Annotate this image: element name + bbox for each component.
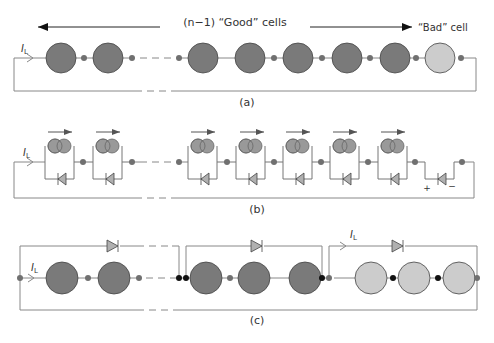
bad-cell bbox=[443, 262, 475, 294]
caption-b: (b) bbox=[249, 203, 265, 216]
bad-cell bbox=[425, 43, 455, 73]
good-cell bbox=[98, 262, 130, 294]
good-cell bbox=[332, 43, 362, 73]
good-cell bbox=[188, 43, 218, 73]
solar-cell-diagram: (n−1) “Good” cells “Bad” cell IL bbox=[0, 0, 494, 343]
good-cell bbox=[289, 262, 321, 294]
current-label-left: IL bbox=[31, 262, 38, 275]
panel-a: (n−1) “Good” cells “Bad” cell IL bbox=[14, 16, 476, 109]
good-cells-label: (n−1) “Good” cells bbox=[183, 16, 287, 29]
good-cell bbox=[283, 43, 313, 73]
circuit-wire bbox=[14, 162, 474, 198]
bad-cell bbox=[355, 262, 387, 294]
good-cell bbox=[235, 43, 265, 73]
plus-sign: + bbox=[423, 183, 431, 193]
good-cell bbox=[46, 262, 78, 294]
bad-cell-label: “Bad” cell bbox=[418, 22, 468, 33]
good-cell bbox=[238, 262, 270, 294]
caption-c: (c) bbox=[250, 314, 265, 327]
current-label: IL bbox=[21, 43, 28, 56]
panel-c: IL IL (c) bbox=[17, 229, 480, 327]
current-label: IL bbox=[23, 147, 30, 160]
current-label-right: IL bbox=[350, 229, 357, 242]
bad-cell bbox=[398, 262, 430, 294]
good-cell bbox=[46, 43, 76, 73]
good-cell bbox=[190, 262, 222, 294]
current-source-icons bbox=[48, 139, 404, 153]
minus-sign: − bbox=[448, 181, 456, 191]
caption-a: (a) bbox=[239, 96, 254, 109]
panel-b: IL + − (b) bbox=[14, 132, 474, 216]
good-cell bbox=[93, 43, 123, 73]
good-cell bbox=[380, 43, 410, 73]
